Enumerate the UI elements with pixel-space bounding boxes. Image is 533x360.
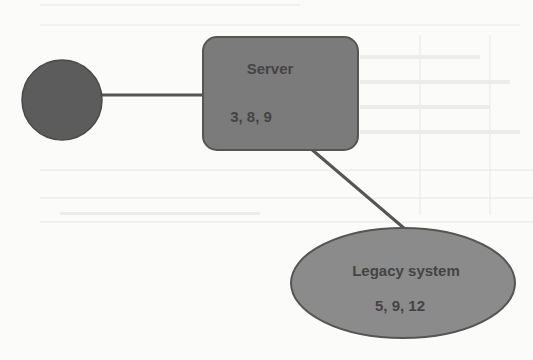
client-circle-shape <box>22 60 102 140</box>
server-values: 3, 8, 9 <box>230 108 272 125</box>
edge-server-legacy <box>310 148 405 229</box>
node-legacy-system[interactable]: Legacy system 5, 9, 12 <box>291 228 515 338</box>
server-box-shape <box>203 37 358 150</box>
network-diagram: Server 3, 8, 9 Legacy system 5, 9, 12 <box>0 0 533 360</box>
server-title: Server <box>247 60 294 77</box>
node-server[interactable]: Server 3, 8, 9 <box>203 37 358 150</box>
legacy-ellipse-shape <box>291 228 515 338</box>
legacy-title: Legacy system <box>352 262 460 279</box>
node-client[interactable] <box>22 60 102 140</box>
legacy-values: 5, 9, 12 <box>375 297 425 314</box>
